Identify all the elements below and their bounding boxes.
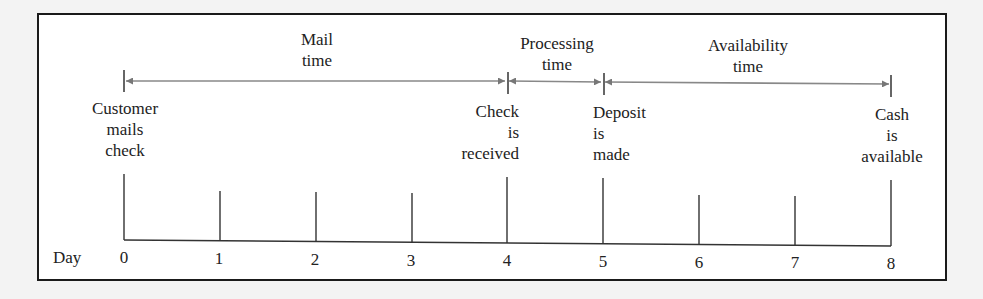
event-check-received: Checkisreceived <box>461 101 519 164</box>
event-customer-mails-check: Customermailscheck <box>92 98 158 161</box>
axis-label-day: Day <box>53 247 81 268</box>
day-label: 5 <box>599 251 608 272</box>
processing-time-label: Processingtime <box>520 33 594 75</box>
day-label: 8 <box>887 253 896 274</box>
day-label: 1 <box>215 248 224 269</box>
availability-time-arrow <box>605 82 889 84</box>
event-deposit-made: Depositismade <box>593 102 646 165</box>
day-label: 3 <box>407 250 416 271</box>
processing-time-arrow <box>509 81 601 82</box>
availability-time-label: Availabilitytime <box>708 35 788 77</box>
day-axis <box>124 174 891 246</box>
day-label: 0 <box>120 247 129 268</box>
mail-time-label: Mailtime <box>301 29 333 71</box>
day-label: 7 <box>791 252 800 273</box>
day-label: 2 <box>311 249 320 270</box>
event-cash-available: Cashisavailable <box>861 104 922 167</box>
day-label: 4 <box>503 250 512 271</box>
day-label: 6 <box>695 252 704 273</box>
